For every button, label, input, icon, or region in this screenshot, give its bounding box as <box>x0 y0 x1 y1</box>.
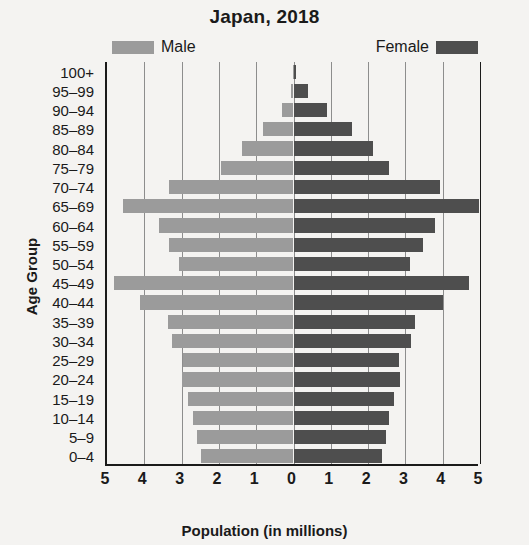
bar-male <box>159 218 294 232</box>
bar-row <box>107 161 478 175</box>
y-axis-tick: 30–34 <box>52 334 94 349</box>
chart-title: Japan, 2018 <box>0 6 529 28</box>
bar-rows <box>107 62 478 464</box>
bar-female <box>294 180 441 194</box>
y-axis-tick: 25–29 <box>52 353 94 368</box>
bar-male <box>221 161 293 175</box>
x-axis-tick: 1 <box>250 470 259 488</box>
legend-item-female: Female <box>376 38 478 56</box>
bar-male <box>114 276 293 290</box>
bar-row <box>107 392 478 406</box>
y-axis-tick-labels: 100+95–9990–9485–8980–8475–7970–7465–696… <box>0 62 101 466</box>
bar-male <box>183 353 293 367</box>
legend-swatch-male-icon <box>112 41 154 54</box>
bar-female <box>294 257 411 271</box>
chart-legend: Male Female <box>105 38 478 58</box>
bar-male <box>263 122 294 136</box>
bar-row <box>107 315 478 329</box>
bar-female <box>294 392 395 406</box>
y-axis-tick: 10–14 <box>52 411 94 426</box>
bar-male <box>179 257 294 271</box>
bar-row <box>107 295 478 309</box>
bar-female <box>294 411 390 425</box>
x-axis-tick-labels: 54321012345 <box>105 470 478 492</box>
bar-row <box>107 353 478 367</box>
bar-male <box>188 392 294 406</box>
bar-female <box>294 65 296 79</box>
bar-row <box>107 103 478 117</box>
bar-female <box>294 141 373 155</box>
bar-row <box>107 257 478 271</box>
bar-female <box>294 199 479 213</box>
bar-female <box>294 103 328 117</box>
x-axis-tick: 3 <box>175 470 184 488</box>
bar-female <box>294 315 415 329</box>
bar-male <box>169 180 294 194</box>
bar-row <box>107 411 478 425</box>
bar-female <box>294 122 353 136</box>
y-axis-tick: 100+ <box>60 65 94 80</box>
bar-row <box>107 122 478 136</box>
x-axis-tick: 5 <box>474 470 483 488</box>
bar-female <box>294 161 389 175</box>
bar-male <box>123 199 293 213</box>
y-axis-tick: 55–59 <box>52 238 94 253</box>
y-axis-tick: 50–54 <box>52 257 94 272</box>
x-axis-tick: 5 <box>101 470 110 488</box>
bar-male <box>282 103 294 117</box>
population-pyramid-chart: Japan, 2018 Male Female Age Group 100+95… <box>0 0 529 545</box>
y-axis-tick: 35–39 <box>52 315 94 330</box>
bar-row <box>107 141 478 155</box>
bar-male <box>193 411 294 425</box>
y-axis-tick: 20–24 <box>52 372 94 387</box>
y-axis-tick: 75–79 <box>52 161 94 176</box>
bar-male <box>140 295 294 309</box>
bar-female <box>294 238 424 252</box>
gridline <box>480 62 481 464</box>
x-axis-tick: 1 <box>324 470 333 488</box>
x-axis-tick: 3 <box>399 470 408 488</box>
y-axis-tick: 45–49 <box>52 276 94 291</box>
legend-swatch-female-icon <box>436 41 478 54</box>
x-axis-title: Population (in millions) <box>0 522 529 539</box>
y-axis-tick: 40–44 <box>52 295 94 310</box>
bar-row <box>107 238 478 252</box>
bar-male <box>201 449 294 463</box>
y-axis-tick: 0–4 <box>69 449 94 464</box>
bar-male <box>169 238 294 252</box>
legend-item-male: Male <box>112 38 196 56</box>
y-axis-tick: 95–99 <box>52 84 94 99</box>
bar-male <box>172 334 294 348</box>
legend-label-female: Female <box>376 38 429 56</box>
bar-row <box>107 449 478 463</box>
x-axis-tick: 4 <box>436 470 445 488</box>
x-axis-tick: 0 <box>287 470 296 488</box>
bar-row <box>107 199 478 213</box>
bar-row <box>107 218 478 232</box>
bar-female <box>294 276 469 290</box>
y-axis-tick: 15–19 <box>52 392 94 407</box>
y-axis-tick: 80–84 <box>52 142 94 157</box>
bar-female <box>294 295 444 309</box>
bar-row <box>107 84 478 98</box>
bar-row <box>107 372 478 386</box>
bar-row <box>107 180 478 194</box>
y-axis-tick: 65–69 <box>52 199 94 214</box>
bar-row <box>107 65 478 79</box>
bar-female <box>294 353 400 367</box>
bar-male <box>168 315 294 329</box>
y-axis-tick: 60–64 <box>52 219 94 234</box>
y-axis-tick: 90–94 <box>52 103 94 118</box>
bar-male <box>242 141 293 155</box>
x-axis-tick: 4 <box>138 470 147 488</box>
bar-row <box>107 430 478 444</box>
bar-female <box>294 372 401 386</box>
plot-area <box>105 62 478 466</box>
bar-female <box>294 84 308 98</box>
bar-row <box>107 334 478 348</box>
bar-male <box>182 372 294 386</box>
bar-male <box>197 430 294 444</box>
y-axis-tick: 85–89 <box>52 122 94 137</box>
x-axis-tick: 2 <box>362 470 371 488</box>
bar-female <box>294 334 411 348</box>
